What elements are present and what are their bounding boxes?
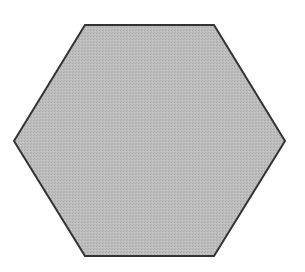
hexagon-diagram xyxy=(0,0,305,272)
diagram-canvas xyxy=(0,0,305,272)
hexagon-shape xyxy=(14,25,285,256)
